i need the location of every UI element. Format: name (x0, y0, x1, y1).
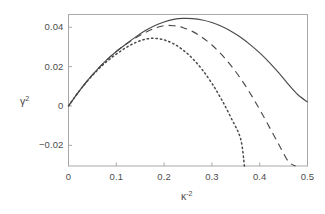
x-tick-label: 0.5 (294, 171, 322, 182)
curve-dotted (69, 38, 245, 166)
curve-solid (69, 18, 308, 106)
x-tick-label: 0.1 (102, 171, 130, 182)
chart-figure: −0.0200.020.04 00.10.20.30.40.5 γ2 κ-2 l… (0, 0, 325, 214)
x-tick-label: 0.4 (246, 171, 274, 182)
data-curves (69, 18, 308, 166)
y-tick-label: 0.04 (25, 21, 64, 32)
y-tick-label: −0.02 (25, 139, 64, 150)
x-axis-title: κ-2 (181, 190, 192, 202)
y-axis-title-exponent: 2 (25, 95, 29, 102)
x-tick-label: 0.2 (150, 171, 178, 182)
x-axis-title-exponent: -2 (186, 190, 192, 197)
x-tick-label: 0.3 (198, 171, 226, 182)
y-tick-label: 0 (25, 100, 64, 111)
y-tick-label: 0.02 (25, 61, 64, 72)
y-axis-ticks (69, 27, 73, 145)
curve-dashed (69, 25, 296, 166)
x-tick-label: 0 (55, 171, 83, 182)
x-axis-ticks (69, 163, 308, 167)
y-axis-title: γ2 (20, 95, 29, 107)
plot-frame (69, 15, 308, 167)
